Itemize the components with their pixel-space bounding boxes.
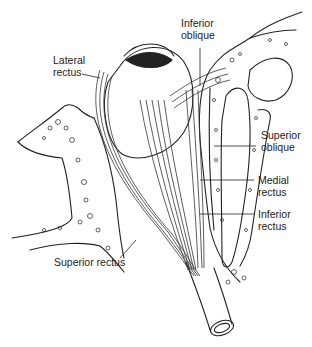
label-medial-rectus: Medial rectus <box>258 174 289 198</box>
label-line: oblique <box>181 29 215 41</box>
label-line: oblique <box>261 141 301 153</box>
label-inferior-rectus: Inferior rectus <box>258 208 291 232</box>
iris <box>126 53 172 68</box>
sinus-cavity-upper <box>248 58 292 101</box>
sinus-cavity-long <box>221 88 250 267</box>
leader-lines <box>82 48 256 258</box>
label-line: Superior rectus <box>54 256 125 268</box>
eye-muscles-diagram: Lateral rectus Inferior oblique Superior… <box>0 0 312 347</box>
label-line: Medial <box>258 174 289 186</box>
label-line: Superior <box>261 129 301 141</box>
label-lateral-rectus: Lateral rectus <box>53 54 85 78</box>
superior-rectus-muscle <box>140 100 188 270</box>
label-line: Inferior <box>258 208 291 220</box>
label-line: rectus <box>258 220 291 232</box>
label-superior-rectus: Superior rectus <box>54 256 125 268</box>
medial-rectus-muscle <box>186 90 198 268</box>
label-line: Inferior <box>181 17 215 29</box>
label-inferior-oblique: Inferior oblique <box>181 17 215 41</box>
label-line: rectus <box>258 186 289 198</box>
label-line: Lateral <box>53 54 85 66</box>
label-superior-oblique: Superior oblique <box>261 129 301 153</box>
label-line: rectus <box>53 66 85 78</box>
